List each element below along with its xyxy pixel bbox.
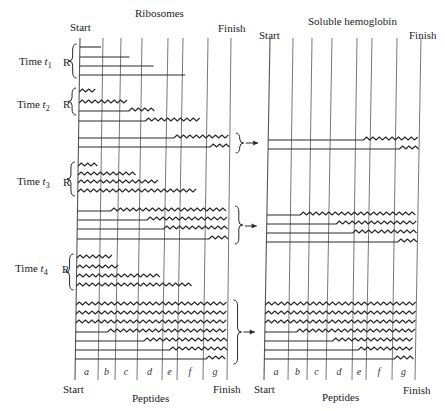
left-bottom-start-label: Start (63, 383, 84, 395)
peptide-chain (78, 180, 158, 183)
peptide-chain (79, 135, 229, 138)
segment-label-c: c (314, 366, 318, 377)
segment-label-f: f (378, 366, 381, 377)
right-panel-grid (264, 38, 421, 380)
ribosome-peptide-chains (75, 47, 229, 359)
right-start-label: Start (259, 29, 280, 41)
r-label-t4: R (62, 263, 69, 275)
right-finish-label: Finish (409, 29, 437, 41)
peptide-chain (79, 89, 95, 92)
peptide-chain (75, 356, 225, 359)
soluble-hemoglobin-title: Soluble hemoglobin (308, 15, 397, 27)
time-t3-label: Time t3 (17, 175, 50, 190)
grid-line (264, 38, 270, 380)
brace (234, 300, 242, 364)
segment-label-g: g (213, 366, 218, 377)
peptide-chain (267, 212, 415, 215)
segment-label-b: b (295, 366, 300, 377)
segment-label-e: e (167, 366, 171, 377)
grid-line (326, 38, 332, 380)
right-bottom-finish-label: Finish (403, 384, 431, 396)
peptide-chain (77, 274, 160, 277)
r-label-t2: R (63, 98, 70, 110)
segment-label-g: g (401, 366, 406, 377)
peptide-chain (78, 189, 196, 192)
left-start-label: Start (70, 21, 91, 33)
peptide-chain (76, 283, 191, 286)
segment-label-b: b (104, 366, 109, 377)
grid-line (366, 38, 372, 380)
peptide-chain (268, 146, 419, 149)
peptide-chain (79, 108, 154, 111)
segment-label-a: a (274, 366, 279, 377)
left-finish-label: Finish (218, 22, 246, 34)
arrow-head-icon (252, 224, 257, 229)
left-bottom-finish-label: Finish (213, 383, 241, 395)
segment-label-f: f (189, 366, 192, 377)
grid-line (352, 38, 357, 380)
peptide-chain (264, 356, 413, 359)
peptide-chain (77, 265, 119, 268)
ribosomes-title: Ribosomes (135, 7, 184, 19)
right-peptides-label: Peptides (322, 391, 359, 403)
time-t1-label: Time t1 (19, 55, 52, 70)
grid-line (98, 38, 103, 380)
grid-line (75, 38, 80, 380)
grid-line (288, 38, 293, 380)
left-peptides-label: Peptides (132, 392, 169, 404)
grid-line (162, 38, 168, 380)
grid-line (177, 38, 183, 380)
peptide-chain (265, 347, 413, 350)
segment-label-d: d (337, 366, 342, 377)
brace (235, 206, 243, 244)
r-label-t3: R (63, 176, 70, 188)
release-arrows (244, 141, 259, 335)
right-bottom-start-label: Start (254, 383, 275, 395)
peptide-chain (77, 217, 227, 220)
arrow-head-icon (253, 141, 258, 146)
segment-label-a: a (84, 366, 89, 377)
segment-label-c: c (124, 366, 128, 377)
brace (236, 133, 244, 153)
peptide-chain (77, 255, 112, 258)
grid-line (307, 38, 312, 380)
time-t2-label: Time t2 (17, 98, 50, 113)
peptide-chain (78, 172, 136, 175)
segment-label-e: e (357, 366, 361, 377)
grid-line (227, 38, 231, 380)
peptide-chain (77, 208, 226, 211)
peptide-chain (265, 338, 413, 341)
peptide-chain (78, 163, 97, 166)
r-label-t1: R (63, 56, 70, 68)
arrow-head-icon (250, 330, 255, 335)
segment-label-d: d (147, 366, 152, 377)
grid-line (415, 38, 421, 380)
time-t4-label: Time t4 (15, 262, 48, 277)
peptide-chain (267, 221, 416, 224)
